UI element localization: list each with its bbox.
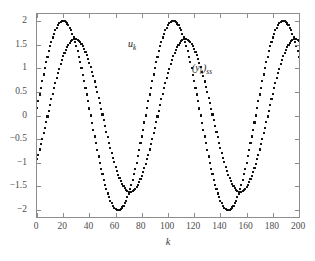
data-point [77, 50, 79, 52]
y-tick-mark [37, 21, 41, 22]
data-point [150, 87, 152, 89]
x-tick-mark [273, 14, 274, 18]
y-tick-label: 0.5 [15, 86, 32, 96]
data-point [120, 180, 122, 182]
data-point [54, 29, 56, 31]
data-point [177, 44, 179, 46]
data-point [142, 129, 144, 131]
data-point [37, 154, 39, 156]
data-point [166, 77, 168, 79]
data-point [194, 87, 196, 89]
data-point [213, 119, 215, 121]
data-point [151, 138, 153, 140]
data-point [60, 63, 62, 65]
data-point [217, 136, 219, 138]
data-point [147, 154, 149, 156]
x-tick-mark [142, 213, 143, 217]
data-point [41, 138, 43, 140]
data-point [83, 48, 85, 50]
data-point [154, 127, 156, 129]
x-tick-mark [37, 213, 38, 217]
data-point [43, 73, 45, 75]
data-point [52, 93, 54, 95]
data-point [105, 188, 107, 190]
data-point [244, 188, 246, 190]
data-point [159, 104, 161, 106]
y-tick-mark [37, 68, 41, 69]
data-point [249, 178, 251, 180]
data-point [265, 61, 267, 63]
data-point [253, 167, 255, 169]
data-point [243, 173, 245, 175]
x-tick-mark [247, 213, 248, 217]
data-point [252, 129, 254, 131]
data-point [215, 131, 217, 133]
data-point [145, 163, 147, 165]
data-point [166, 27, 168, 29]
data-point [53, 87, 55, 89]
data-point [63, 52, 65, 54]
data-point [251, 175, 253, 177]
data-point [298, 40, 299, 42]
data-point [244, 168, 246, 170]
data-point [247, 184, 249, 186]
data-point [132, 179, 134, 181]
y-tick-mark [295, 210, 299, 211]
data-point [201, 122, 203, 124]
data-point [74, 41, 76, 43]
series-label-u-subscript: k [133, 44, 136, 52]
data-point [61, 59, 63, 61]
data-point [80, 67, 82, 69]
data-point [164, 29, 166, 31]
y-tick-mark [37, 92, 41, 93]
data-point [278, 68, 280, 70]
x-tick-label: 100 [160, 221, 174, 231]
y-tick-mark [295, 92, 299, 93]
data-point [145, 114, 147, 116]
data-point [270, 98, 272, 100]
data-point [260, 143, 262, 145]
data-point [215, 188, 217, 190]
data-point [70, 29, 72, 31]
data-point [221, 152, 223, 154]
data-point [37, 100, 39, 102]
data-point [95, 142, 97, 144]
data-point [204, 80, 206, 82]
data-point [101, 113, 103, 115]
data-point [155, 61, 157, 63]
x-tick-mark [89, 213, 90, 217]
data-point [45, 121, 47, 123]
data-point [138, 149, 140, 151]
data-point [117, 174, 119, 176]
data-point [141, 135, 143, 137]
x-tick-label: 60 [110, 221, 120, 231]
y-tick-mark [295, 163, 299, 164]
data-point [100, 108, 102, 110]
data-point [143, 167, 145, 169]
data-point [62, 55, 64, 57]
data-point [289, 27, 291, 29]
data-point [48, 50, 50, 52]
data-point [257, 100, 259, 102]
data-point [253, 121, 255, 123]
data-point [154, 67, 156, 69]
data-point [92, 129, 94, 131]
data-point [267, 115, 269, 117]
data-point [79, 61, 81, 63]
y-tick-label: 1.5 [15, 39, 32, 49]
data-point [158, 50, 160, 52]
data-point [149, 148, 151, 150]
y-tick-mark [295, 45, 299, 46]
data-point [58, 68, 60, 70]
data-point [158, 110, 160, 112]
data-point [252, 171, 254, 173]
data-point [298, 56, 299, 58]
data-point [54, 82, 56, 84]
data-point [108, 196, 110, 198]
data-point [142, 171, 144, 173]
data-point [226, 170, 228, 172]
data-point [193, 80, 195, 82]
x-tick-mark [168, 14, 169, 18]
data-point [113, 161, 115, 163]
data-point [210, 168, 212, 170]
